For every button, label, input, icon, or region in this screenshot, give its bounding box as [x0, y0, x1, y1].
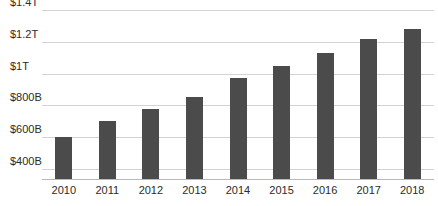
plot-area [42, 10, 434, 180]
y-axis-tick-label: $1.2T [10, 29, 41, 40]
bar-2017 [360, 39, 377, 180]
x-axis-tick-label: 2011 [85, 184, 129, 197]
x-axis-tick-label: 2018 [390, 184, 434, 197]
y-axis-tick-label: $600B [10, 124, 45, 135]
bar-series [42, 10, 434, 180]
x-axis-tick-label: 2017 [347, 184, 391, 197]
bar-2018 [404, 29, 421, 180]
y-axis-tick-label: $1T [10, 61, 32, 72]
y-axis-tick-label: $800B [10, 92, 45, 103]
bar-chart: $400B$600B$800B$1T$1.2T$1.4T 20102011201… [0, 0, 438, 206]
x-axis-tick-label: 2010 [42, 184, 86, 197]
bar-2012 [142, 109, 159, 180]
bar-2016 [317, 53, 334, 180]
x-axis-tick-label: 2014 [216, 184, 260, 197]
x-axis-line [42, 179, 434, 180]
bar-2011 [99, 121, 116, 180]
x-axis-tick-label: 2015 [260, 184, 304, 197]
x-axis-tick-label: 2013 [172, 184, 216, 197]
bar-2013 [186, 97, 203, 180]
bar-2010 [55, 137, 72, 180]
bar-2015 [273, 66, 290, 180]
x-axis-tick-label: 2016 [303, 184, 347, 197]
x-axis-labels: 201020112012201320142015201620172018 [42, 184, 434, 202]
x-axis-tick-label: 2012 [129, 184, 173, 197]
y-axis-tick-label: $400B [10, 156, 45, 167]
y-axis-tick-label: $1.4T [10, 0, 41, 8]
bar-2014 [230, 78, 247, 180]
